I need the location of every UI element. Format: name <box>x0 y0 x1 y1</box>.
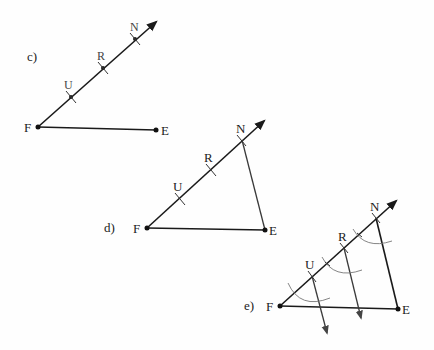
label-r: R <box>97 49 105 63</box>
label-n: N <box>130 20 139 34</box>
label-u: U <box>305 257 315 272</box>
ray-fn <box>38 22 156 127</box>
label-n: N <box>236 121 246 136</box>
diagram-d: d) F E U R N <box>104 121 277 238</box>
diagram-canvas: c) F E U R N d) F E U R N e) <box>0 0 434 350</box>
segment-ne <box>376 218 398 309</box>
label-f: F <box>266 299 273 314</box>
segment-ne <box>242 140 265 230</box>
segment-fe <box>38 127 156 130</box>
point-f <box>36 125 41 130</box>
point-e <box>263 228 268 233</box>
label-u: U <box>64 78 73 92</box>
arc-n <box>353 229 392 244</box>
label-e: E <box>161 123 169 138</box>
label-e: E <box>402 302 410 317</box>
point-e <box>154 128 159 133</box>
label-f: F <box>24 120 31 135</box>
label-f: F <box>133 221 140 236</box>
diagram-e-label: e) <box>244 298 254 313</box>
point-f <box>278 304 283 309</box>
label-r: R <box>204 150 213 165</box>
segment-fe <box>280 306 398 309</box>
label-u: U <box>173 179 183 194</box>
diagram-d-label: d) <box>104 220 115 235</box>
ray-fn <box>280 201 396 306</box>
point-f <box>145 226 150 231</box>
point-e <box>396 307 401 312</box>
label-n: N <box>370 199 380 214</box>
segment-fe <box>147 228 265 230</box>
label-r: R <box>338 229 347 244</box>
label-e: E <box>269 223 277 238</box>
parallel-line-u <box>312 276 327 333</box>
diagram-c-label: c) <box>27 49 37 64</box>
diagram-e: e) F E U R N <box>244 199 410 333</box>
diagram-c: c) F E U R N <box>24 20 169 138</box>
construction-diagram: c) F E U R N d) F E U R N e) <box>0 0 434 350</box>
